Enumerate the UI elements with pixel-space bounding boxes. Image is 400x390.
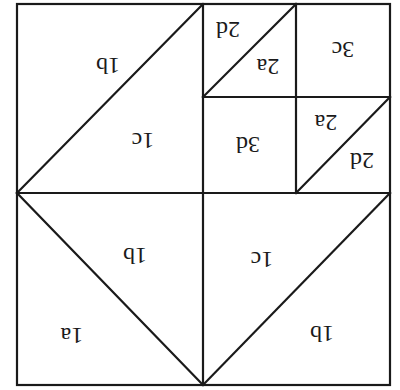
piece-label: 2d — [350, 148, 374, 174]
piece-label: 3c — [332, 37, 355, 63]
diagonal-bottom-right — [203, 193, 390, 385]
piece-label: 1c — [132, 128, 155, 154]
piece-label: 1b — [96, 53, 120, 79]
diagonal-tr-d — [296, 97, 390, 193]
piece-label: 1b — [123, 243, 147, 269]
piece-label: 1a — [60, 323, 83, 349]
piece-label: 2a — [314, 110, 337, 136]
piece-label: 3d — [236, 132, 260, 158]
piece-label: 2a — [256, 54, 279, 80]
quilt-diagram: 1b 1c 2d 2a 3c 3d 2a 2d 1b 1a 1c 1b — [0, 0, 400, 390]
piece-labels: 1b 1c 2d 2a 3c 3d 2a 2d 1b 1a 1c 1b — [60, 17, 374, 349]
piece-label: 1b — [310, 321, 334, 347]
diagonal-bottom-left — [17, 193, 203, 385]
piece-label: 2d — [216, 17, 240, 43]
diagonal-top-left — [17, 4, 203, 193]
piece-label: 1c — [251, 247, 274, 273]
